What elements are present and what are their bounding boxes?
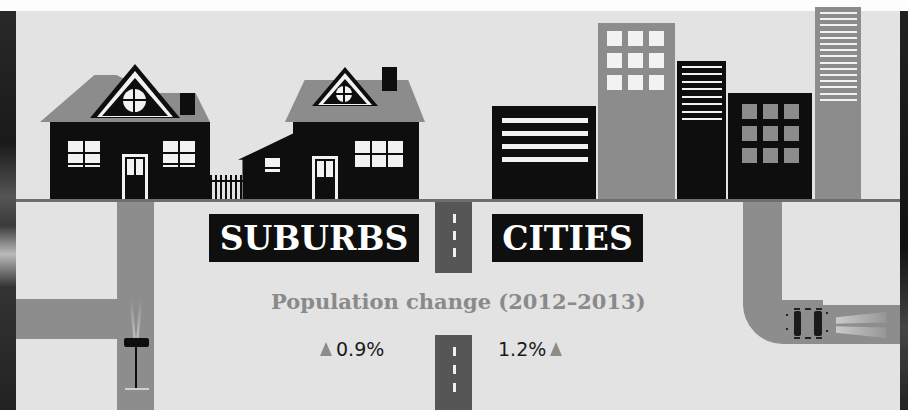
small-house-chimney — [382, 67, 397, 91]
fence-rail — [210, 180, 244, 182]
annex-window — [265, 158, 280, 172]
car-tail-light — [786, 314, 788, 316]
building-window — [763, 126, 778, 141]
window-transom — [163, 152, 195, 154]
car-rear-window — [794, 311, 801, 336]
sprinkler-pole — [135, 346, 137, 390]
center-road-bottom — [435, 335, 472, 410]
lane-dash — [453, 347, 456, 356]
building-window — [763, 148, 778, 163]
building-window — [784, 104, 799, 119]
building-window — [628, 75, 643, 90]
building-window — [742, 148, 757, 163]
cities-stat-value: 1.2% — [498, 338, 546, 360]
right-curved-road-vertical — [743, 202, 782, 307]
building-window — [607, 31, 622, 46]
sprinkler-base — [125, 388, 149, 390]
building-window — [649, 31, 664, 46]
large-house-chimney — [180, 93, 195, 115]
building-window — [784, 148, 799, 163]
up-arrow-icon — [550, 342, 562, 356]
building-window — [742, 126, 757, 141]
population-change-subtitle: Population change (2012–2013) — [271, 289, 646, 314]
building-5-stripes — [820, 12, 857, 101]
building-4-windows — [742, 104, 800, 164]
car-headlight — [826, 330, 828, 332]
center-road-top — [435, 202, 472, 273]
door-glass-divider — [324, 161, 326, 177]
building-window — [784, 126, 799, 141]
lane-dash — [453, 231, 456, 240]
building-3-stripes — [682, 66, 722, 122]
building-window — [628, 31, 643, 46]
up-arrow-icon — [320, 342, 332, 356]
background-photo-left — [0, 0, 16, 410]
building-window — [742, 104, 757, 119]
door-glass-divider — [134, 159, 136, 175]
building-window — [649, 75, 664, 90]
building-window — [607, 53, 622, 68]
building-window — [628, 53, 643, 68]
window-transom — [355, 153, 403, 155]
left-horizontal-road — [16, 299, 117, 339]
car-icon — [786, 308, 836, 340]
building-1-stripe — [502, 118, 588, 123]
window-transom — [68, 152, 100, 154]
building-1-stripe — [502, 144, 588, 149]
car-tail-light — [786, 328, 788, 330]
lane-dash — [453, 383, 456, 392]
suburbs-label-text: SUBURBS — [220, 219, 408, 258]
building-1-stripe — [502, 157, 588, 162]
suburbs-stat-value: 0.9% — [336, 338, 384, 360]
window-sill-gap — [163, 163, 195, 165]
building-window — [607, 75, 622, 90]
picket-fence — [210, 175, 244, 200]
top-white-strip — [0, 0, 908, 11]
cities-label: CITIES — [492, 214, 643, 262]
suburbs-label: SUBURBS — [209, 214, 419, 262]
building-window — [763, 104, 778, 119]
cities-stat: 1.2% — [498, 338, 562, 360]
lane-dash — [453, 365, 456, 374]
round-window-cross-h — [336, 93, 352, 95]
background-photo-right — [900, 0, 908, 410]
lane-dash — [453, 248, 456, 257]
building-window — [649, 53, 664, 68]
window-sill-gap — [68, 163, 100, 165]
round-window-cross-h — [123, 99, 146, 101]
annex-window-sill — [265, 167, 280, 169]
building-2-windows — [607, 31, 667, 93]
cities-label-text: CITIES — [502, 219, 633, 258]
car-windshield — [814, 311, 822, 336]
suburbs-stat: 0.9% — [320, 338, 384, 360]
building-1-stripe — [502, 131, 588, 136]
lane-dash — [453, 214, 456, 223]
car-headlight — [826, 312, 828, 314]
